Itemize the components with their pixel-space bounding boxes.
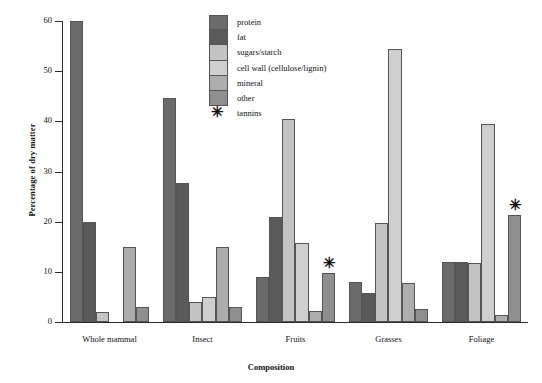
y-tick [55, 71, 62, 72]
x-axis-line [62, 322, 528, 323]
bar-group: ✳ [442, 21, 521, 322]
y-tick [55, 322, 62, 323]
bar [176, 183, 189, 322]
bar [70, 21, 83, 322]
bar [136, 307, 149, 322]
legend-item: other [209, 91, 399, 106]
legend-item: protein [209, 15, 399, 30]
x-category-label: Grasses [342, 334, 435, 344]
bar [189, 302, 202, 322]
legend-item-tannins: ✳tannins [209, 106, 399, 122]
bar [468, 263, 481, 322]
legend-swatch [209, 45, 228, 60]
bar [322, 273, 335, 322]
bar [269, 217, 282, 322]
y-tick-label: 40 [30, 115, 52, 125]
y-tick-label: 0 [30, 316, 52, 326]
legend-label: other [237, 93, 254, 103]
legend-label: fat [237, 32, 246, 42]
legend: proteinfatsugars/starchcell wall (cellul… [209, 15, 399, 122]
legend-label: mineral [237, 78, 263, 88]
y-tick [55, 121, 62, 122]
bar [415, 309, 428, 322]
legend-swatch [209, 76, 228, 91]
bar [202, 297, 215, 322]
tannins-asterisk-icon: ✳ [323, 258, 336, 268]
legend-item: mineral [209, 76, 399, 91]
x-category-label: Foliage [435, 334, 528, 344]
bar [495, 315, 508, 322]
x-category-label: Insect [156, 334, 249, 344]
legend-item: fat [209, 30, 399, 45]
bar [282, 119, 295, 322]
y-tick [55, 222, 62, 223]
legend-label: sugars/starch [237, 47, 281, 57]
bar [163, 98, 176, 322]
y-tick-label: 50 [30, 65, 52, 75]
bar [481, 124, 494, 322]
legend-item: sugars/starch [209, 45, 399, 60]
y-tick-label: 60 [30, 15, 52, 25]
y-tick [55, 21, 62, 22]
bar [375, 223, 388, 322]
y-tick-label: 30 [30, 166, 52, 176]
tannins-asterisk-icon: ✳ [211, 103, 224, 121]
x-axis-title: Composition [0, 362, 542, 372]
y-tick [55, 172, 62, 173]
y-tick-label: 10 [30, 266, 52, 276]
bar [229, 307, 242, 322]
legend-label: tannins [237, 108, 262, 118]
bar [123, 247, 136, 322]
bar [362, 293, 375, 322]
legend-item: cell wall (cellulose/lignin) [209, 61, 399, 76]
x-category-label: Fruits [249, 334, 342, 344]
legend-swatch [209, 15, 228, 30]
bar [508, 215, 521, 322]
bar-chart: Percentage of dry matter 0102030405060 ✳… [0, 0, 542, 383]
legend-swatch [209, 30, 228, 45]
legend-label: protein [237, 17, 261, 27]
x-category-label: Whole mammal [63, 334, 156, 344]
legend-swatch [209, 61, 228, 76]
bar [216, 247, 229, 322]
bar [96, 312, 109, 322]
bar [402, 283, 415, 322]
legend-label: cell wall (cellulose/lignin) [237, 63, 326, 73]
bar [295, 243, 308, 322]
y-tick [55, 272, 62, 273]
bar-group [70, 21, 149, 322]
tannins-asterisk-icon: ✳ [509, 200, 522, 210]
bar [349, 282, 362, 322]
bar [309, 311, 322, 322]
y-tick-label: 20 [30, 216, 52, 226]
bar [83, 222, 96, 322]
bar [256, 277, 269, 322]
bar [442, 262, 455, 322]
bar [455, 262, 468, 322]
